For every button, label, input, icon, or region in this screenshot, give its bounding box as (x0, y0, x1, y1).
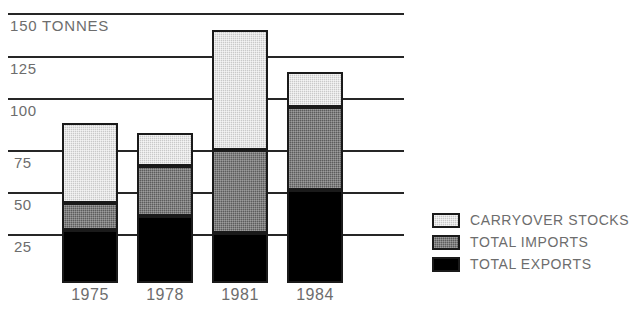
bar-1975-segment-imports[interactable] (62, 203, 118, 230)
bar-1978-segment-exports[interactable] (137, 216, 193, 283)
bar-1978-segment-imports[interactable] (137, 166, 193, 216)
bar-1984-segment-imports[interactable] (287, 107, 343, 190)
legend-label-carryover-stocks: CARRYOVER STOCKS (470, 212, 629, 228)
legend-swatch-exports-icon (432, 257, 460, 272)
y-axis-unit-label: 150 TONNES (10, 17, 109, 34)
gridline-150 (8, 13, 404, 15)
legend-swatch-carryover-icon (432, 213, 460, 228)
bar-1975[interactable] (62, 123, 118, 283)
gridline-125 (8, 56, 404, 58)
bar-1978-segment-carryover[interactable] (137, 133, 193, 166)
bar-1981-segment-imports[interactable] (212, 150, 268, 233)
y-tick-75: 75 (14, 154, 32, 171)
x-tick-1984: 1984 (287, 286, 343, 304)
bar-1981[interactable] (212, 30, 268, 283)
bar-1981-segment-carryover[interactable] (212, 30, 268, 150)
bar-1981-segment-exports[interactable] (212, 233, 268, 283)
bar-1978[interactable] (137, 133, 193, 283)
bar-1975-segment-exports[interactable] (62, 230, 118, 283)
x-tick-1975: 1975 (62, 286, 118, 304)
legend-label-total-imports: TOTAL IMPORTS (470, 234, 589, 250)
legend-label-total-exports: TOTAL EXPORTS (470, 256, 592, 272)
y-tick-50: 50 (14, 196, 32, 213)
x-tick-1981: 1981 (212, 286, 268, 304)
bar-1984-segment-carryover[interactable] (287, 72, 343, 107)
legend-item-total-exports[interactable]: TOTAL EXPORTS (432, 256, 592, 272)
gridline-100 (8, 98, 404, 100)
y-tick-25: 25 (14, 238, 32, 255)
bar-1984-segment-exports[interactable] (287, 190, 343, 283)
legend-item-total-imports[interactable]: TOTAL IMPORTS (432, 234, 589, 250)
y-tick-100: 100 (10, 102, 37, 119)
bar-1975-segment-carryover[interactable] (62, 123, 118, 203)
bar-1984[interactable] (287, 72, 343, 283)
x-tick-1978: 1978 (137, 286, 193, 304)
legend-swatch-imports-icon (432, 235, 460, 250)
legend-item-carryover-stocks[interactable]: CARRYOVER STOCKS (432, 212, 629, 228)
y-tick-125: 125 (10, 60, 37, 77)
chart-legend: CARRYOVER STOCKS TOTAL IMPORTS TOTAL EXP… (432, 212, 617, 274)
